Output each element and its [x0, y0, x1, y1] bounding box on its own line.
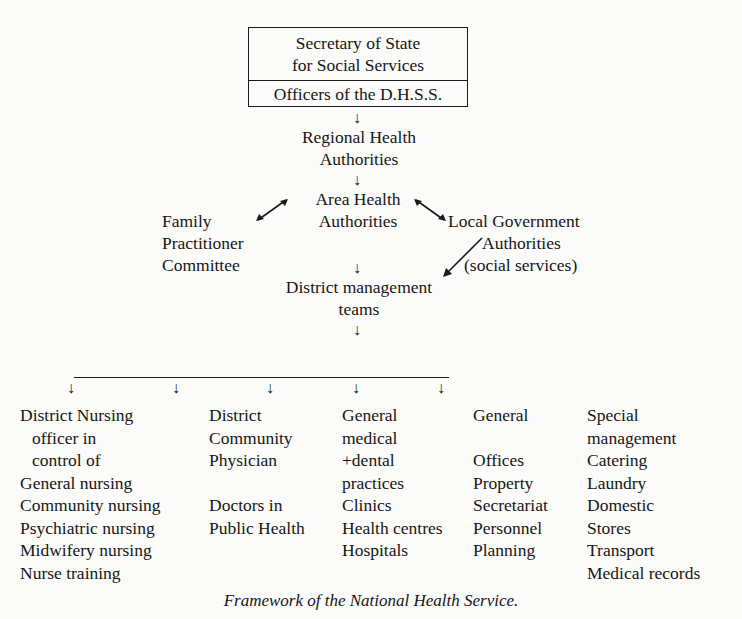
branch-item: Hospitals	[342, 539, 443, 562]
arrow-down-icon: ↓	[67, 380, 75, 396]
branch-title: medical	[342, 427, 443, 450]
bidirectional-arrow-right-icon	[410, 196, 450, 226]
branch-item: Transport	[587, 539, 700, 562]
branch-item: Community nursing	[20, 494, 161, 517]
district-management-teams-node: District management teams	[249, 276, 469, 320]
regional-line-1: Regional Health	[259, 126, 459, 148]
arrow-down-icon: ↓	[266, 380, 274, 396]
branch-item: General nursing	[20, 472, 161, 495]
box-divider	[249, 80, 467, 81]
branch-general-medical-dental: General medical +dental practices Clinic…	[342, 404, 443, 562]
branch-title: management	[587, 427, 700, 450]
branch-item: Catering	[587, 449, 700, 472]
branch-general-admin: General Offices Property Secretariat Per…	[473, 404, 548, 562]
arrow-down-icon: ↓	[353, 260, 361, 276]
branch-item: Laundry	[587, 472, 700, 495]
branch-district-nursing: District Nursing officer in control of G…	[20, 404, 161, 584]
branch-item: Secretariat	[473, 494, 548, 517]
regional-health-authorities-node: Regional Health Authorities	[259, 126, 459, 170]
secretary-of-state-box: Secretary of State for Social Services O…	[248, 27, 468, 107]
arrow-down-icon: ↓	[353, 110, 361, 126]
branch-title: District Nursing	[20, 404, 161, 427]
box-line-2: for Social Services	[249, 54, 467, 76]
secretary-of-state-label: Secretary of State for Social Services	[249, 32, 467, 76]
district-mgmt-line-2: teams	[249, 298, 469, 320]
branch-title: officer in	[20, 427, 161, 450]
branch-connector-line-m	[74, 377, 448, 378]
figure-caption: Framework of the National Health Service…	[0, 591, 742, 611]
branch-item: Public Health	[209, 517, 305, 540]
branch-item: Stores	[587, 517, 700, 540]
family-practitioner-committee-node: Family Practitioner Committee	[162, 210, 244, 276]
arrow-down-left-icon	[440, 236, 486, 280]
district-mgmt-line-1: District management	[249, 276, 469, 298]
branch-item: Doctors in	[209, 494, 305, 517]
regional-line-2: Authorities	[259, 148, 459, 170]
branch-spacer	[473, 427, 548, 450]
bidirectional-arrow-left-icon	[252, 196, 292, 226]
branch-item: Property	[473, 472, 548, 495]
branch-title: District	[209, 404, 305, 427]
branch-item: Health centres	[342, 517, 443, 540]
branch-title: Special	[587, 404, 700, 427]
family-line-3: Committee	[162, 254, 244, 276]
branch-item: Clinics	[342, 494, 443, 517]
family-line-2: Practitioner	[162, 232, 244, 254]
branch-title: control of	[20, 449, 161, 472]
branch-item: Planning	[473, 539, 548, 562]
branch-item: Offices	[473, 449, 548, 472]
branch-item: Nurse training	[20, 562, 161, 585]
branch-special-management: Special management Catering Laundry Dome…	[587, 404, 700, 584]
arrow-down-icon: ↓	[437, 380, 445, 396]
branch-item: Medical records	[587, 562, 700, 585]
local-gov-line-1: Local Government	[448, 210, 580, 232]
box-line-1: Secretary of State	[249, 32, 467, 54]
family-line-1: Family	[162, 210, 244, 232]
arrow-down-icon: ↓	[352, 380, 360, 396]
branch-title: General	[342, 404, 443, 427]
branch-district-community-physician: District Community Physician Doctors in …	[209, 404, 305, 539]
branch-title: practices	[342, 472, 443, 495]
branch-spacer	[209, 472, 305, 495]
arrow-down-icon: ↓	[172, 380, 180, 396]
dhss-officers-label: Officers of the D.H.S.S.	[249, 83, 467, 105]
branch-title: +dental	[342, 449, 443, 472]
branch-item: Domestic	[587, 494, 700, 517]
branch-title: Physician	[209, 449, 305, 472]
arrow-down-icon: ↓	[353, 322, 361, 338]
branch-item: Psychiatric nursing	[20, 517, 161, 540]
arrow-down-icon: ↓	[353, 172, 361, 188]
branch-item: Midwifery nursing	[20, 539, 161, 562]
branch-title: Community	[209, 427, 305, 450]
branch-item: Personnel	[473, 517, 548, 540]
branch-title: General	[473, 404, 548, 427]
